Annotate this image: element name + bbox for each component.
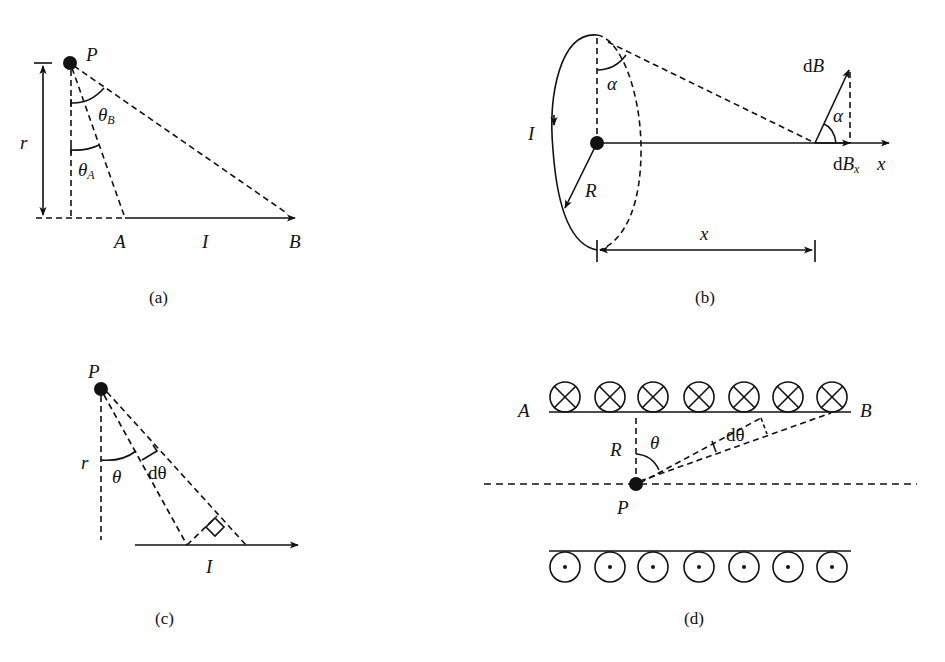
label-current-i: I <box>202 232 208 251</box>
point-p-dot <box>63 56 77 70</box>
label-alpha-top: α <box>607 74 617 93</box>
theta-b-symbol: θ <box>98 104 107 125</box>
label-dtheta: dθ <box>148 463 167 482</box>
theta-b-subscript: B <box>107 113 114 127</box>
theta-b-arc <box>71 88 104 103</box>
circle-dot-icon <box>773 552 803 582</box>
label-point-p: P <box>617 498 629 517</box>
label-dtheta: dθ <box>726 425 745 444</box>
circle-cross-icon-row <box>550 382 847 412</box>
circle-cross-icon <box>773 382 803 412</box>
circle-dot-icon <box>729 552 759 582</box>
db-b: B <box>813 55 825 76</box>
label-point-p: P <box>86 45 98 64</box>
label-db: dB <box>803 56 824 75</box>
panel-d-diagram <box>484 382 917 582</box>
right-angle-marker <box>206 518 224 536</box>
label-radius-r: R <box>585 181 597 200</box>
element-projection-dashed <box>761 418 767 434</box>
label-dbx: dBx <box>833 154 859 175</box>
label-radius-r: R <box>610 440 622 459</box>
theta-a-arc <box>71 145 99 150</box>
circle-cross-icon <box>550 382 580 412</box>
point-p-dot <box>94 382 108 396</box>
label-current-i: I <box>528 124 534 143</box>
circle-dot-icon <box>684 552 714 582</box>
theta-a-subscript: A <box>87 168 94 182</box>
circle-dot-icon <box>550 552 580 582</box>
caption-a: (a) <box>149 289 168 306</box>
dtheta-bracket <box>142 445 157 460</box>
caption-b: (b) <box>695 289 715 306</box>
circle-cross-icon <box>729 382 759 412</box>
circle-cross-icon <box>817 382 847 412</box>
circle-dot-icon <box>595 552 625 582</box>
label-distance-r: r <box>81 453 88 472</box>
line-loop-to-point <box>608 42 815 143</box>
label-theta-b: θB <box>98 105 115 126</box>
label-point-p: P <box>88 362 100 381</box>
dbx-subscript: x <box>854 162 859 176</box>
circle-cross-icon <box>595 382 625 412</box>
caption-c: (c) <box>155 610 174 627</box>
point-p-dot <box>629 477 643 491</box>
label-theta: θ <box>112 467 121 486</box>
circle-cross-icon <box>684 382 714 412</box>
alpha-arc-vector <box>824 124 836 143</box>
theta-arc <box>636 454 659 470</box>
label-distance-x: x <box>700 224 708 243</box>
loop-center-dot <box>590 136 604 150</box>
db-d: d <box>803 55 813 76</box>
label-end-a: A <box>114 232 126 251</box>
theta-a-symbol: θ <box>78 159 87 180</box>
label-current-i: I <box>206 557 212 576</box>
line-p-to-a <box>72 68 125 218</box>
figure-canvas <box>0 0 945 662</box>
circle-dot-icon-row <box>550 552 847 582</box>
label-end-b: B <box>289 232 301 251</box>
panel-c-diagram <box>94 382 298 545</box>
label-alpha-vector: α <box>833 106 843 125</box>
label-theta-a: θA <box>78 160 95 181</box>
label-distance-r: r <box>20 133 27 152</box>
line-p-to-b <box>74 66 288 214</box>
circle-dot-icon <box>817 552 847 582</box>
theta-arc <box>101 451 136 460</box>
dbx-d: d <box>833 153 843 174</box>
label-axis-x: x <box>877 154 885 173</box>
circle-cross-icon <box>638 382 668 412</box>
panel-b-diagram <box>552 35 889 262</box>
dbx-b: B <box>843 153 855 174</box>
label-end-a: A <box>518 401 530 420</box>
circle-dot-icon <box>638 552 668 582</box>
label-end-b: B <box>860 401 872 420</box>
panel-a-diagram <box>34 56 295 218</box>
caption-d: (d) <box>684 610 704 627</box>
line-p-to-element-end <box>107 392 246 545</box>
label-theta: θ <box>650 433 659 452</box>
